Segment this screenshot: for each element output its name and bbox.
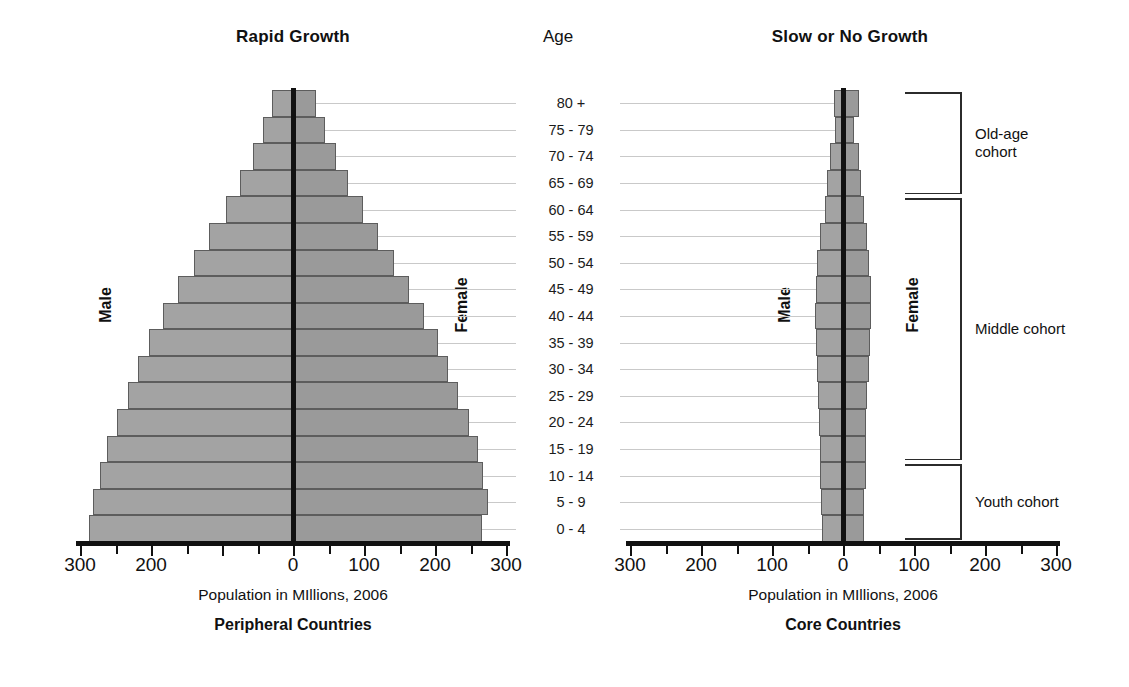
bar-male bbox=[817, 356, 843, 383]
bar-male bbox=[817, 250, 843, 277]
axis-tick-minor bbox=[471, 546, 473, 554]
leader-line bbox=[482, 529, 516, 530]
age-band-label: 15 - 19 bbox=[512, 441, 630, 457]
age-band-label: 65 - 69 bbox=[512, 175, 630, 191]
bar-female bbox=[293, 409, 469, 436]
leader-line bbox=[363, 210, 516, 211]
bar-female bbox=[843, 223, 867, 250]
bar-male bbox=[253, 143, 293, 170]
right-panel-footer: Core Countries bbox=[693, 616, 993, 634]
bar-female bbox=[843, 489, 864, 516]
left-panel-title: Rapid Growth bbox=[178, 27, 408, 47]
axis-tick-minor bbox=[879, 546, 881, 554]
bracket-bottom-rule bbox=[905, 538, 962, 540]
left-panel-footer: Peripheral Countries bbox=[143, 616, 443, 634]
axis-tick-label: 100 bbox=[348, 554, 380, 576]
bar-male bbox=[138, 356, 293, 383]
age-band-label: 5 - 9 bbox=[512, 494, 630, 510]
axis-tick-minor bbox=[1021, 546, 1023, 554]
bar-male bbox=[194, 250, 293, 277]
leader-line bbox=[620, 422, 819, 423]
bar-male bbox=[818, 382, 843, 409]
bar-male bbox=[820, 436, 843, 463]
axis-tick-label: 200 bbox=[135, 554, 167, 576]
axis-tick-label: 200 bbox=[419, 554, 451, 576]
bar-male bbox=[820, 462, 843, 489]
bar-male bbox=[272, 90, 293, 117]
age-band-label: 75 - 79 bbox=[512, 122, 630, 138]
leader-line bbox=[620, 156, 830, 157]
leader-line bbox=[620, 236, 820, 237]
bar-female bbox=[293, 196, 363, 223]
bar-female bbox=[293, 143, 336, 170]
bracket-bottom-rule bbox=[905, 193, 962, 195]
right-panel-title: Slow or No Growth bbox=[725, 27, 975, 47]
cohort-label: Youth cohort bbox=[975, 493, 1059, 511]
bar-male bbox=[89, 515, 293, 542]
bar-male bbox=[820, 223, 843, 250]
leader-line bbox=[424, 316, 516, 317]
left-center-axis bbox=[291, 88, 296, 544]
bracket-bottom-rule bbox=[905, 459, 962, 461]
axis-tick-minor bbox=[116, 546, 118, 554]
leader-line bbox=[620, 263, 817, 264]
axis-tick-label: 100 bbox=[898, 554, 930, 576]
cohort-bracket bbox=[905, 464, 962, 540]
age-band-label: 45 - 49 bbox=[512, 281, 630, 297]
age-band-label: 80 + bbox=[512, 95, 630, 111]
bar-male bbox=[149, 329, 293, 356]
bar-male bbox=[821, 489, 843, 516]
age-band-label: 30 - 34 bbox=[512, 361, 630, 377]
bar-male bbox=[240, 170, 293, 197]
bracket-spine bbox=[960, 464, 962, 540]
leader-line bbox=[438, 343, 516, 344]
leader-line bbox=[620, 316, 815, 317]
bar-male bbox=[816, 276, 843, 303]
bar-female bbox=[293, 462, 483, 489]
bar-female bbox=[843, 329, 870, 356]
bar-male bbox=[263, 117, 293, 144]
cohort-label: Old-age cohort bbox=[975, 125, 1028, 160]
axis-tick-label: 100 bbox=[756, 554, 788, 576]
axis-tick-label: 300 bbox=[64, 554, 96, 576]
bar-female bbox=[843, 356, 869, 383]
bar-male bbox=[815, 303, 843, 330]
age-label-column: 80 +75 - 7970 - 7465 - 6960 - 6455 - 595… bbox=[512, 90, 622, 542]
leader-line bbox=[394, 263, 516, 264]
bar-female bbox=[293, 90, 316, 117]
leader-line bbox=[620, 130, 835, 131]
bar-male bbox=[117, 409, 293, 436]
bar-male bbox=[178, 276, 293, 303]
age-band-label: 70 - 74 bbox=[512, 148, 630, 164]
bar-female bbox=[843, 436, 866, 463]
bar-female bbox=[843, 276, 871, 303]
bar-male bbox=[822, 515, 843, 542]
leader-line bbox=[448, 369, 516, 370]
age-band-label: 60 - 64 bbox=[512, 202, 630, 218]
cohort-label: Middle cohort bbox=[975, 320, 1065, 338]
axis-tick-label: 200 bbox=[685, 554, 717, 576]
left-axis-caption: Population in MIllions, 2006 bbox=[143, 586, 443, 604]
bar-female bbox=[843, 515, 864, 542]
bar-female bbox=[843, 303, 871, 330]
axis-tick-label: 300 bbox=[1040, 554, 1072, 576]
axis-tick-minor bbox=[666, 546, 668, 554]
leader-line bbox=[620, 343, 816, 344]
leader-line bbox=[325, 130, 516, 131]
bar-female bbox=[293, 117, 325, 144]
leader-line bbox=[336, 156, 516, 157]
bar-female bbox=[293, 250, 394, 277]
bracket-spine bbox=[960, 198, 962, 460]
bar-male bbox=[819, 409, 843, 436]
bar-female bbox=[293, 303, 424, 330]
leader-line bbox=[620, 210, 825, 211]
bar-male bbox=[226, 196, 293, 223]
leader-line bbox=[348, 183, 516, 184]
bar-female bbox=[293, 170, 348, 197]
axis-tick-minor bbox=[950, 546, 952, 554]
age-band-label: 0 - 4 bbox=[512, 521, 630, 537]
bar-female bbox=[293, 276, 409, 303]
right-axis-caption: Population in MIllions, 2006 bbox=[693, 586, 993, 604]
bar-female bbox=[843, 196, 864, 223]
bar-female bbox=[293, 329, 438, 356]
